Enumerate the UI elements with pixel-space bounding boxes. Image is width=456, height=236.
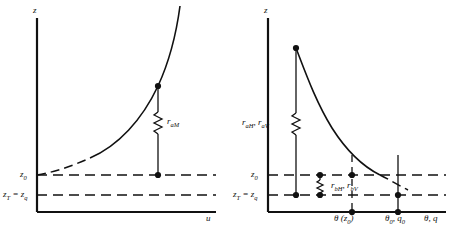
resistor-symbol-r-aM xyxy=(154,112,162,134)
marker-upper-profile-point xyxy=(293,45,299,51)
wind-profile-curve-dashed xyxy=(37,158,90,175)
right-level-label-zT-zq: zT = zq xyxy=(233,190,257,201)
scalar-profile-curve xyxy=(296,48,380,175)
marker-b-base-point xyxy=(317,192,323,198)
left-y-axis-label: z xyxy=(33,6,37,15)
right-level-label-z0: z0 xyxy=(251,170,258,181)
right-y-axis-label: z xyxy=(264,6,268,15)
resistor-symbol-r-bH-r-bV xyxy=(317,180,323,193)
left-panel-drawing xyxy=(0,0,228,236)
left-resistance-label-r-aM: raM xyxy=(167,117,179,128)
resistor-symbol-r-aH-r-aV xyxy=(292,113,300,135)
marker-a-base-point xyxy=(293,192,299,198)
panel-right-scalar-profile: z θ, q z0 zT = zq raH, raV rbH, rbV θ (z… xyxy=(228,0,456,236)
marker-surface-intersection-point xyxy=(395,192,401,198)
left-level-label-zT-zq: zT = zq xyxy=(3,190,27,201)
marker-z0-level-point xyxy=(155,172,161,178)
marker-z0-intersection-point xyxy=(349,172,355,178)
right-x-tick-label-theta-z0: θ (z0) xyxy=(334,214,353,225)
right-resistance-label-r-aH-r-aV: raH, raV xyxy=(242,118,269,129)
right-x-tick-label-theta0-q0: θ0, q0 xyxy=(385,214,405,225)
marker-upper-profile-point xyxy=(155,83,161,89)
marker-b-top-point xyxy=(317,172,323,178)
right-resistance-label-r-bH-r-bV: rbH, rbV xyxy=(331,181,358,192)
scalar-profile-curve-dashed xyxy=(380,175,408,190)
wind-profile-curve xyxy=(90,6,180,158)
right-x-axis-label: θ, q xyxy=(424,214,437,223)
panel-left-wind-profile: z u z0 zT = zq raM xyxy=(0,0,228,236)
left-level-label-z0: z0 xyxy=(20,170,27,181)
left-x-axis-label: u xyxy=(206,214,211,223)
